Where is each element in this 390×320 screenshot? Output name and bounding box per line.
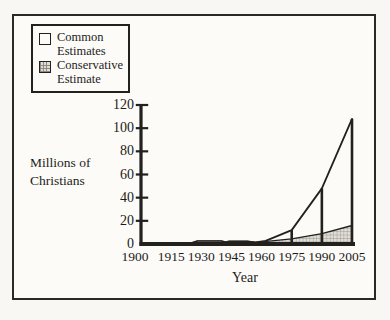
area-chart-plot: [0, 0, 390, 320]
common-estimates-area: [141, 119, 352, 244]
scanned-figure-page: { "figure": { "paper_color": "#f9f7f3", …: [0, 0, 390, 320]
